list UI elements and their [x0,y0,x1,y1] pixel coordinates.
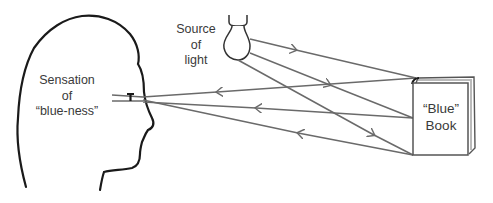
source-label-line: of [170,38,222,54]
reflected-rays [112,78,416,155]
sensation-label-line: “blue-ness” [28,104,106,120]
book-label: “Blue” Book [413,100,469,134]
book-label-line: Book [413,117,469,134]
light-bulb-icon [224,15,250,60]
incident-rays [238,39,416,155]
sensation-label-line: of [28,89,106,105]
source-label-line: light [170,53,222,69]
reflected-ray-middle [256,108,413,118]
sensation-label: Sensation of “blue-ness” [28,73,106,120]
source-label-line: Source [170,22,222,38]
eye-icon [127,94,134,101]
book-label-line: “Blue” [413,100,469,117]
incident-ray-top [250,39,296,50]
light-source-label: Source of light [170,22,222,69]
sensation-label-line: Sensation [28,73,106,89]
reflected-ray-bottom [298,133,413,155]
incident-ray-middle [250,53,330,85]
incident-ray-bottom [238,60,374,135]
